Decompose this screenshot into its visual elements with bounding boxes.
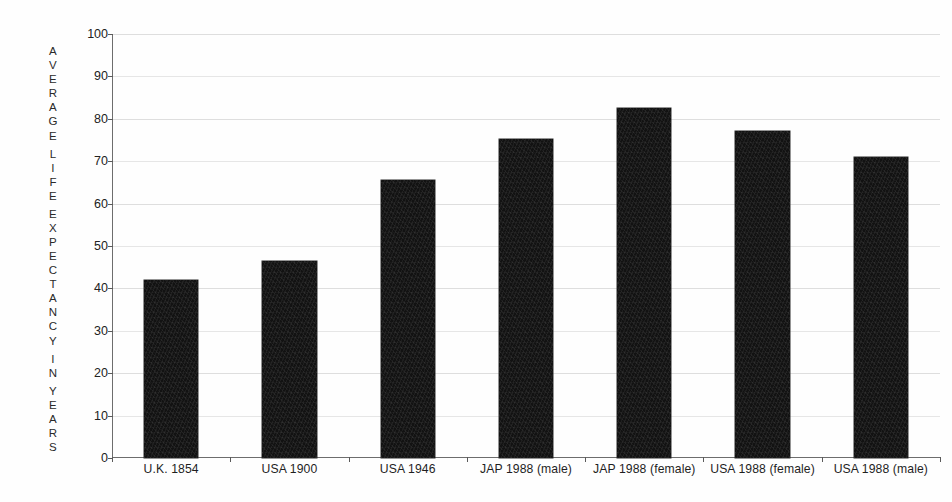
y-axis-tick-label: 10 (94, 409, 108, 423)
y-axis-title-char: L (50, 147, 57, 161)
x-axis-category-label: USA 1946 (380, 462, 436, 476)
y-axis-title-char: R (49, 426, 58, 440)
bar-chart: AVERAGELIFEEXPECTANCYINYEARS 10090807060… (0, 0, 952, 502)
y-axis-tick-label: 40 (94, 281, 108, 295)
x-axis-tick-mark (940, 457, 941, 462)
plot-area (112, 34, 940, 458)
y-axis-title-char: G (48, 114, 57, 128)
y-axis-title-char: A (49, 44, 57, 58)
bar (617, 108, 671, 458)
y-axis-title-char: E (49, 189, 57, 203)
y-axis-title-char: Y (49, 334, 57, 348)
x-axis-category-label: USA 1900 (262, 462, 318, 476)
y-axis-title-char: V (49, 58, 57, 72)
bar (262, 261, 316, 458)
x-axis-category-label: USA 1988 (female) (710, 462, 815, 476)
y-axis-title-char: I (51, 352, 54, 366)
x-axis-category-label: USA 1988 (male) (834, 462, 928, 476)
y-axis-tick-label: 70 (94, 154, 108, 168)
y-axis-title-char: R (49, 86, 58, 100)
y-axis-tick-label: 30 (94, 324, 108, 338)
y-axis-title-char: I (51, 161, 54, 175)
y-axis-title-char: A (49, 291, 57, 305)
x-axis-category-label: JAP 1988 (female) (593, 462, 695, 476)
bar (735, 131, 789, 458)
y-axis-title-char: T (49, 277, 56, 291)
y-axis-title-char: A (49, 412, 57, 426)
y-axis-tick-label: 100 (87, 27, 108, 41)
y-axis-tick-label: 0 (101, 451, 108, 465)
bar (499, 139, 553, 458)
bars-series (112, 34, 940, 458)
bar (144, 280, 198, 458)
y-axis-title-char: C (49, 263, 58, 277)
y-axis-tick-label: 60 (94, 197, 108, 211)
y-axis-title-char: C (49, 319, 58, 333)
y-axis-tick-label: 80 (94, 112, 108, 126)
y-axis-title-char: P (49, 235, 57, 249)
y-axis-tick-label: 90 (94, 69, 108, 83)
x-axis-category-labels: U.K. 1854USA 1900USA 1946JAP 1988 (male)… (112, 462, 940, 486)
y-axis-title-char: N (49, 305, 58, 319)
y-axis-tick-label: 20 (94, 366, 108, 380)
y-axis-title-char: E (49, 72, 57, 86)
y-axis-title-char: S (49, 440, 57, 454)
y-axis-title-char: Y (49, 384, 57, 398)
y-axis-title-char: F (49, 175, 56, 189)
x-axis-category-label: JAP 1988 (male) (480, 462, 572, 476)
y-axis-title-char: A (49, 100, 57, 114)
y-axis-title-char: E (49, 207, 57, 221)
y-axis-tick-label: 50 (94, 239, 108, 253)
y-axis-title-char: E (49, 398, 57, 412)
y-axis-title: AVERAGELIFEEXPECTANCYINYEARS (42, 44, 64, 454)
bar (381, 180, 435, 458)
bar (854, 157, 908, 458)
x-axis-category-label: U.K. 1854 (144, 462, 199, 476)
y-axis-title-char: N (49, 366, 58, 380)
y-axis-title-char: X (49, 221, 57, 235)
y-axis-title-char: E (49, 129, 57, 143)
y-axis-title-char: E (49, 249, 57, 263)
y-axis-tick-labels: 1009080706050403020100 (68, 0, 108, 502)
